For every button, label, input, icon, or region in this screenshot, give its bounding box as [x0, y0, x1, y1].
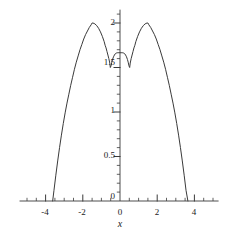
- y-tick-label-1: 1: [97, 106, 115, 115]
- x-tick-label-0: 0: [108, 208, 132, 217]
- x-axis-title: x: [108, 219, 132, 229]
- plot-figure: 2 1.5 1 0.5 0 -4 -2 0 2 4 x: [0, 0, 232, 240]
- x-tick-label-4: 4: [182, 208, 206, 217]
- plot-canvas: [0, 0, 232, 240]
- y-tick-label-0: 0: [97, 192, 115, 201]
- x-tick-label-minus-4: -4: [33, 208, 57, 217]
- x-tick-label-minus-2: -2: [70, 208, 94, 217]
- y-tick-label-2: 2: [97, 18, 115, 27]
- y-tick-label-0-5: 0.5: [93, 151, 115, 160]
- x-tick-label-2: 2: [145, 208, 169, 217]
- y-tick-label-1-5: 1.5: [93, 58, 115, 67]
- axes-group: [20, 10, 219, 202]
